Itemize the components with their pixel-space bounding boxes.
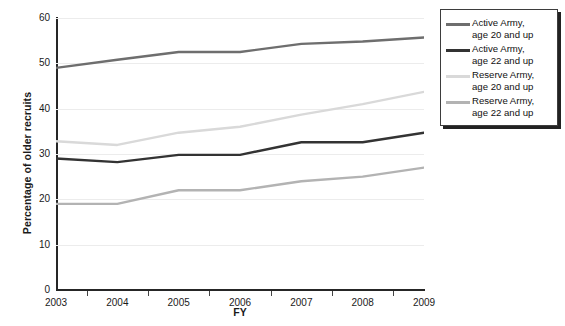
- y-axis-tick-labels: 0102030405060: [0, 18, 50, 290]
- chart-figure: Percentage of older recruits 01020304050…: [0, 0, 565, 326]
- chart-legend: Active Army, age 20 and upActive Army, a…: [440, 9, 558, 126]
- legend-item: Active Army, age 22 and up: [446, 43, 552, 66]
- legend-swatch-icon: [446, 17, 472, 26]
- legend-label: Reserve Army, age 22 and up: [472, 95, 552, 118]
- y-tick-label: 10: [4, 240, 50, 250]
- x-tick-mark: [393, 291, 394, 296]
- x-tick-mark: [87, 291, 88, 296]
- series-line: [56, 133, 424, 162]
- legend-label: Reserve Army, age 20 and up: [472, 69, 552, 92]
- series-line: [56, 37, 424, 67]
- legend-swatch-icon: [446, 95, 472, 104]
- legend-color-bar: [446, 75, 470, 78]
- legend-label: Active Army, age 20 and up: [472, 17, 552, 40]
- x-tick-mark: [209, 291, 210, 296]
- y-tick-label: 30: [4, 149, 50, 159]
- series-lines: [56, 18, 424, 290]
- legend-color-bar: [446, 49, 470, 52]
- y-tick-label: 60: [4, 13, 50, 23]
- legend-swatch-icon: [446, 43, 472, 52]
- x-axis-title: FY: [55, 306, 425, 318]
- legend-item: Reserve Army, age 22 and up: [446, 95, 552, 118]
- x-tick-mark: [332, 291, 333, 296]
- y-tick-label: 40: [4, 104, 50, 114]
- series-line: [56, 168, 424, 204]
- series-line: [56, 92, 424, 145]
- legend-item: Active Army, age 20 and up: [446, 17, 552, 40]
- legend-label: Active Army, age 22 and up: [472, 43, 552, 66]
- y-tick-label: 0: [4, 285, 50, 295]
- x-tick-mark: [271, 291, 272, 296]
- legend-item: Reserve Army, age 20 and up: [446, 69, 552, 92]
- legend-color-bar: [446, 23, 470, 26]
- y-tick-label: 20: [4, 194, 50, 204]
- legend-swatch-icon: [446, 69, 472, 78]
- y-tick-label: 50: [4, 58, 50, 68]
- x-tick-mark: [148, 291, 149, 296]
- legend-color-bar: [446, 101, 470, 104]
